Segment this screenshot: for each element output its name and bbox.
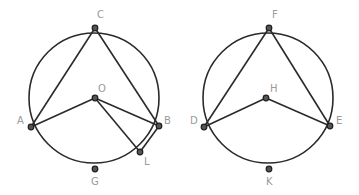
segment-ol <box>95 98 140 152</box>
segment-fe <box>269 28 330 126</box>
point-f <box>266 25 272 31</box>
point-g <box>92 166 98 172</box>
right-segments <box>204 28 330 127</box>
label-k: K <box>266 176 273 187</box>
label-h: H <box>270 83 278 94</box>
point-l <box>137 149 143 155</box>
point-e <box>327 123 333 129</box>
right-figure: FHDEK <box>190 9 342 187</box>
label-c: C <box>97 9 104 20</box>
label-l: L <box>144 156 150 167</box>
label-g: G <box>91 176 99 187</box>
label-e: E <box>336 115 342 126</box>
point-c <box>92 25 98 31</box>
label-f: F <box>272 9 278 20</box>
label-d: D <box>190 115 198 126</box>
geometry-diagram: COABLG FHDEK <box>0 0 359 195</box>
label-b: B <box>164 115 171 126</box>
left-segments <box>31 28 159 152</box>
label-o: O <box>98 83 106 94</box>
left-figure: COABLG <box>17 9 171 187</box>
point-k <box>266 166 272 172</box>
segment-lb <box>140 126 159 152</box>
point-h <box>263 95 269 101</box>
point-a <box>28 124 34 130</box>
point-b <box>156 123 162 129</box>
label-a: A <box>17 115 24 126</box>
point-d <box>201 124 207 130</box>
point-o <box>92 95 98 101</box>
